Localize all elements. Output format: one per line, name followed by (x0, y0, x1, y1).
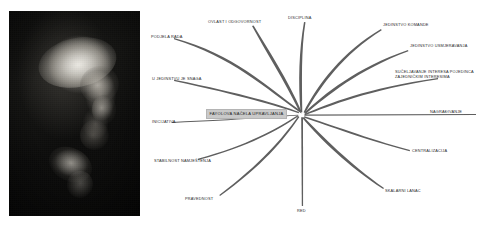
center-node-label[interactable]: FAYOLOVA NAČELA UPRAVLJANJA (206, 109, 287, 119)
figure-page: FAYOLOVA NAČELA UPRAVLJANJA PODJELA RADA… (0, 0, 493, 228)
portrait-photograph-henri-fayol (9, 11, 140, 216)
node-label-ovlast-i-odgovornost[interactable]: OVLAST I ODGOVORNOST (208, 19, 261, 24)
node-label-u-jedinstvu-je-snaga[interactable]: U JEDINSTVU JE SNAGA (152, 76, 201, 81)
spoke-pravednost (219, 116, 299, 196)
node-label-podjela-rada[interactable]: PODJELA RADA (151, 34, 183, 39)
node-label-suceljavanje-interesa-line2: ZAJEDNIČKIM INTERESIMA (395, 74, 493, 79)
spoke-nagradivanje (304, 114, 476, 116)
node-label-jedinstvo-komande[interactable]: JEDINSTVO KOMANDE (383, 22, 429, 27)
node-label-red[interactable]: RED (297, 208, 306, 213)
spoke-ovlast-i-odgovornost (252, 26, 301, 112)
spoke-jedinstvo-usmjeravanja (304, 50, 408, 114)
node-label-skalarni-lanac[interactable]: SKALARNI LANAC (385, 188, 421, 193)
node-label-suceljavanje-interesa[interactable]: SUČELJAVANJE INTERESA POJEDINCA ZAJEDNIČ… (395, 69, 493, 79)
node-label-jedinstvo-usmjeravanja[interactable]: JEDINSTVO USMJERAVANJA (410, 43, 467, 48)
node-label-centralizacija[interactable]: CENTRALIZACIJA (412, 148, 447, 153)
node-label-pravednost[interactable]: PRAVEDNOST (185, 196, 213, 201)
node-label-inicijativa[interactable]: INICIJATIVA (152, 119, 175, 124)
spoke-disciplina (299, 22, 305, 113)
fayol-principles-diagram: FAYOLOVA NAČELA UPRAVLJANJA PODJELA RADA… (146, 0, 493, 228)
spoke-red (301, 117, 303, 206)
spoke-skalarni-lanac (303, 117, 384, 189)
portrait-image (9, 11, 140, 216)
node-label-stabilnost-namjestenja[interactable]: STABILNOST NAMJEŠTENJA (154, 158, 211, 163)
node-label-nagradivanje[interactable]: NAGRAĐIVANJE (430, 109, 462, 114)
node-label-disciplina[interactable]: DISCIPLINA (288, 15, 311, 20)
